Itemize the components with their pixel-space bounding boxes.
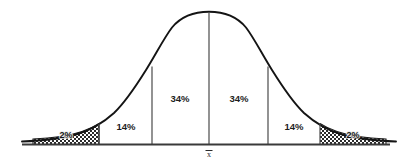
bell-curve-figure: 2% 14% 34% 34% 14% 2% x xyxy=(0,0,412,166)
label-right-inner-34pct: 34% xyxy=(229,93,249,104)
normal-distribution-chart: 2% 14% 34% 34% 14% 2% x xyxy=(0,0,412,166)
label-right-outer-14pct: 14% xyxy=(284,121,304,132)
label-tail-right-2pct: 2% xyxy=(346,130,359,140)
label-tail-left-2pct: 2% xyxy=(59,130,72,140)
mean-symbol-text: x xyxy=(207,150,211,159)
label-left-outer-14pct: 14% xyxy=(116,121,136,132)
label-left-inner-34pct: 34% xyxy=(170,93,190,104)
mean-axis-label: x xyxy=(206,150,213,159)
